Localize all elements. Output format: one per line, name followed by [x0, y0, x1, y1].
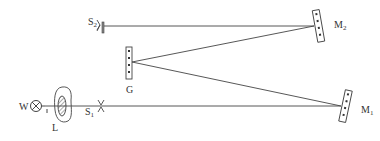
spectrometer-diagram: W L S1 S2 G M2 [0, 0, 380, 141]
slit1-label: S1 [85, 106, 95, 119]
slit2-icon [97, 20, 104, 33]
mirror2-icon [312, 10, 324, 43]
beam-paths [45, 26, 341, 106]
beam-m1-to-grating [132, 62, 341, 106]
diagram-canvas: W L S1 S2 G M2 [0, 0, 380, 141]
mirror1-label: M1 [361, 104, 374, 117]
lens-icon [55, 87, 72, 122]
grating-icon [126, 47, 132, 79]
slit2-label: S2 [88, 16, 98, 29]
lamp-label: W [19, 101, 29, 112]
lens-label: L [52, 122, 58, 133]
grating-label: G [126, 84, 133, 95]
lamp-icon [31, 101, 48, 114]
mirror2-label: M2 [334, 19, 347, 32]
beam-grating-to-m2 [132, 26, 314, 62]
